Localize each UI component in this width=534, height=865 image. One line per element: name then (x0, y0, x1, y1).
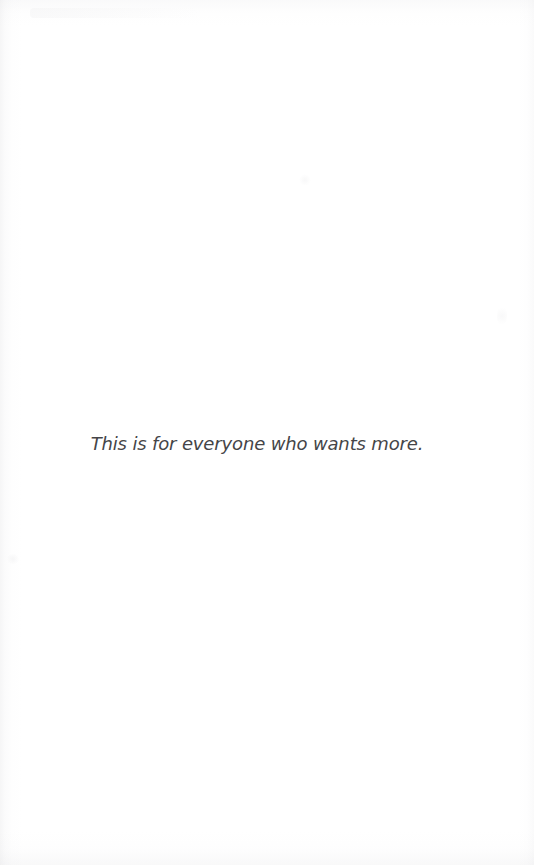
scan-shadow-right-edge (518, 0, 534, 865)
scan-artifact-speck (497, 305, 507, 327)
scan-artifact-speck (6, 554, 20, 564)
dedication-text: This is for everyone who wants more. (0, 432, 514, 456)
scan-shadow-bottom-edge (0, 831, 534, 865)
scan-artifact-speck (30, 8, 200, 18)
document-page: This is for everyone who wants more. (0, 0, 534, 865)
scan-artifact-speck (299, 174, 311, 186)
scan-shadow-top-edge (0, 0, 534, 26)
